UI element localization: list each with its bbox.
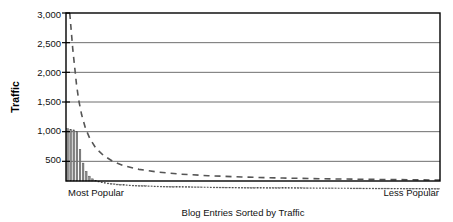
y-tick-label-1000: 1,000 — [37, 125, 61, 136]
plot-background — [66, 13, 440, 181]
y-axis-title: Traffic — [9, 81, 21, 113]
y-tick-label-2000: 2,000 — [37, 67, 61, 78]
y-tick-label-2500: 2,500 — [37, 38, 61, 49]
x-axis-left-label: Most Popular — [68, 187, 124, 198]
x-axis-right-label: Less Popular — [384, 187, 439, 198]
y-tick-label-3000: 3,000 — [37, 9, 61, 20]
traffic-long-tail-chart: 3,000 2,500 2,000 1,500 1,000 500 Traffi… — [0, 0, 453, 222]
chart-figure: 3,000 2,500 2,000 1,500 1,000 500 Traffi… — [0, 0, 453, 222]
x-axis-title: Blog Entries Sorted by Traffic — [182, 207, 305, 218]
y-tick-label-500: 500 — [45, 154, 61, 165]
y-tick-label-1500: 1,500 — [37, 96, 61, 107]
